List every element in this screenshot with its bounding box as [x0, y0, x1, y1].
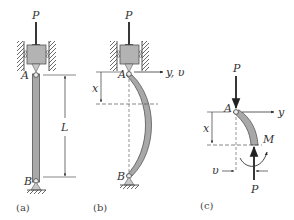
load-top-label-c: P: [232, 62, 241, 75]
caption-c: (c): [200, 200, 214, 211]
point-a-label-c: A: [223, 102, 232, 115]
pin-support-b: [124, 177, 134, 185]
axis-label-b: y, υ: [165, 66, 185, 79]
position-label-b: x: [92, 82, 99, 95]
point-b-label-b: B: [116, 170, 125, 183]
load-bottom-label-c: P: [250, 183, 259, 196]
caption-a: (a): [16, 202, 30, 213]
deflection-label-c: υ: [212, 164, 219, 177]
free-body-segment-c: [233, 110, 258, 145]
caption-b: (b): [93, 202, 107, 213]
moment-label-c: M: [262, 133, 275, 146]
point-a-label-b: A: [117, 68, 126, 81]
wall-hatching-left-a: [17, 41, 24, 71]
length-label: L: [60, 121, 68, 134]
wall-hatching-right-a: [49, 41, 56, 71]
point-a-label-a: A: [20, 69, 29, 82]
buckled-column-b: [126, 75, 152, 176]
pin-c: [234, 110, 239, 115]
pin-b-top: [127, 72, 132, 77]
load-label-a: P: [31, 9, 40, 22]
pin-a-top: [34, 73, 39, 78]
panel-a: P A B L (a): [16, 9, 76, 213]
column-a: [33, 74, 40, 182]
pin-support-a: [31, 182, 41, 190]
buckling-column-diagram: P A B L (a) P: [0, 0, 294, 220]
panel-b: P A B y, υ x (b): [92, 9, 185, 213]
axis-label-c: y: [277, 106, 285, 119]
point-b-label-a: B: [23, 175, 32, 188]
wall-hatching-right-b: [142, 41, 149, 71]
position-label-c: x: [203, 122, 210, 135]
sliding-block-a: [27, 45, 46, 64]
panel-c: P A y x P M υ (c): [200, 62, 285, 211]
wall-hatching-left-b: [110, 41, 117, 71]
load-label-b: P: [124, 9, 133, 22]
sliding-block-b: [120, 45, 139, 64]
